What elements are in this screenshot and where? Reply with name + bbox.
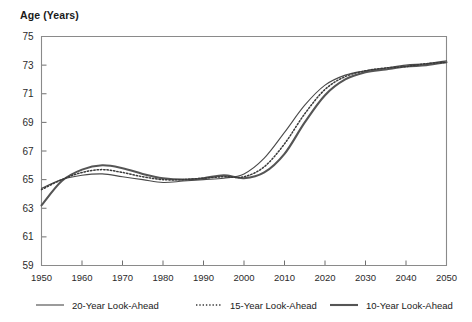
y-tick-label: 59 (22, 260, 34, 271)
x-tick-label: 1960 (71, 272, 92, 283)
x-tick-label: 2040 (395, 272, 416, 283)
line-chart-plot: 596163656769717375 195019601970198019902… (0, 0, 472, 322)
x-tick-label: 1990 (193, 272, 214, 283)
y-tick-label: 67 (22, 146, 34, 157)
y-tick-label: 73 (22, 60, 34, 71)
legend-item: 10-Year Look-Ahead (330, 300, 453, 311)
y-tick-label: 71 (22, 88, 34, 99)
y-axis-tick-labels: 596163656769717375 (22, 31, 34, 271)
x-tick-label: 1950 (31, 272, 52, 283)
x-tick-label: 1970 (112, 272, 133, 283)
series-line-15-year-look-ahead (42, 62, 447, 189)
legend-item: 15-Year Look-Ahead (196, 300, 317, 311)
y-tick-label: 75 (22, 31, 34, 42)
x-tick-label: 2050 (436, 272, 457, 283)
x-tick-label: 2030 (355, 272, 376, 283)
y-tick-label: 63 (22, 203, 34, 214)
chart-container: Age (Years) 596163656769717375 195019601… (0, 0, 472, 322)
x-tick-label: 1980 (152, 272, 173, 283)
x-tick-label: 2010 (274, 272, 295, 283)
y-tick-label: 61 (22, 231, 34, 242)
legend-label: 20-Year Look-Ahead (72, 300, 159, 311)
x-tick-label: 2020 (314, 272, 335, 283)
y-tick-label: 65 (22, 174, 34, 185)
x-axis-tick-labels: 1950196019701980199020002010202020302040… (31, 272, 457, 283)
x-tick-label: 2000 (233, 272, 254, 283)
series-line-10-year-look-ahead (42, 62, 447, 205)
legend-label: 10-Year Look-Ahead (366, 300, 453, 311)
data-series-group (42, 61, 447, 206)
plot-frame (42, 37, 447, 266)
chart-legend: 20-Year Look-Ahead15-Year Look-Ahead10-Y… (36, 300, 453, 311)
y-tick-label: 69 (22, 117, 34, 128)
legend-item: 20-Year Look-Ahead (36, 300, 159, 311)
legend-label: 15-Year Look-Ahead (230, 300, 317, 311)
